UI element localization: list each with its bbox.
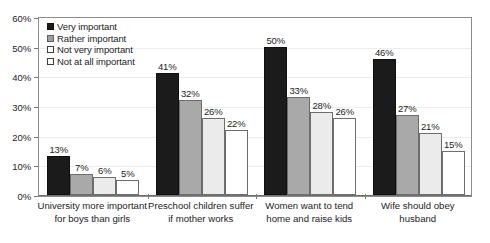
legend-item[interactable]: Very important (47, 21, 151, 33)
legend-item[interactable]: Rather important (47, 33, 151, 45)
bar[interactable] (264, 47, 287, 195)
bar[interactable] (116, 180, 139, 195)
bar-group: 41%32%26%22% (148, 17, 257, 195)
bar-value-label: 46% (367, 47, 402, 58)
y-tick-label: 60% (12, 13, 31, 24)
legend-item-label: Not very important (57, 44, 133, 55)
x-category-label-line: Wife should obey (358, 200, 479, 213)
legend-swatch-icon (47, 35, 54, 42)
x-category-label-line: home and raise kids (249, 213, 370, 226)
y-tick-label: 50% (12, 42, 31, 53)
legend-item-label: Rather important (57, 33, 126, 44)
y-tick-label: 40% (12, 72, 31, 83)
x-group-tick (256, 194, 257, 199)
bar-value-label: 50% (258, 35, 293, 46)
bar[interactable] (70, 174, 93, 195)
y-tick-label: 20% (12, 131, 31, 142)
legend-swatch-icon (47, 23, 54, 30)
bar[interactable] (225, 130, 248, 195)
legend-item-label: Not at all important (57, 56, 135, 67)
legend-item[interactable]: Not at all important (47, 56, 151, 68)
x-category-label-line: Women want to tend (249, 200, 370, 213)
bar[interactable] (202, 118, 225, 195)
y-tick-label: 10% (12, 161, 31, 172)
bar[interactable] (333, 118, 356, 195)
legend-swatch-icon (47, 46, 54, 53)
x-category-label: University more importantfor boys than g… (32, 200, 153, 225)
bar-value-label: 32% (173, 88, 208, 99)
bar[interactable] (373, 59, 396, 195)
x-category-label: Wife should obeyhusband (358, 200, 479, 225)
bar[interactable] (442, 151, 465, 196)
x-axis-category-labels: University more importantfor boys than g… (38, 200, 472, 243)
bar[interactable] (287, 97, 310, 195)
bar-value-label: 5% (110, 168, 145, 179)
bar-value-label: 33% (281, 85, 316, 96)
bar-value-label: 26% (327, 106, 362, 117)
legend-swatch-icon (47, 58, 54, 65)
x-group-tick (148, 194, 149, 199)
bar[interactable] (93, 177, 116, 195)
legend-item[interactable]: Not very important (47, 44, 151, 56)
bar-value-label: 26% (196, 106, 231, 117)
chart-legend: Very importantRather importantNot very i… (47, 21, 151, 67)
legend-item-label: Very important (57, 21, 117, 32)
bar-value-label: 21% (413, 121, 448, 132)
bar-group: 50%33%28%26% (256, 17, 365, 195)
bar-chart: 0%10%20%30%40%50%60% 13%7%6%5%41%32%26%2… (0, 0, 490, 243)
bar-group: 46%27%21%15% (365, 17, 474, 195)
x-category-label: Preschool children sufferif mother works (141, 200, 262, 225)
y-tick-label: 30% (12, 102, 31, 113)
x-category-label-line: husband (358, 213, 479, 226)
bar-value-label: 41% (150, 61, 185, 72)
axis-baseline (39, 195, 471, 196)
bar-value-label: 22% (219, 118, 254, 129)
x-category-label: Women want to tendhome and raise kids (249, 200, 370, 225)
bar-value-label: 15% (436, 139, 471, 150)
bar-value-label: 27% (390, 103, 425, 114)
bar-value-label: 13% (41, 144, 76, 155)
clipped-title-strip (0, 0, 490, 9)
x-category-label-line: University more important (32, 200, 153, 213)
x-category-label-line: if mother works (141, 213, 262, 226)
y-tick-label: 0% (17, 191, 31, 202)
x-category-label-line: for boys than girls (32, 213, 153, 226)
bar[interactable] (310, 112, 333, 195)
x-group-tick (365, 194, 366, 199)
x-category-label-line: Preschool children suffer (141, 200, 262, 213)
